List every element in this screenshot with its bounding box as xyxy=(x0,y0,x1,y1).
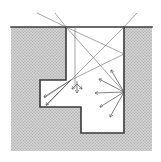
cavity-scattering-diagram xyxy=(0,0,161,162)
light-ray xyxy=(55,13,66,27)
light-ray xyxy=(37,13,66,27)
light-ray xyxy=(124,13,137,27)
